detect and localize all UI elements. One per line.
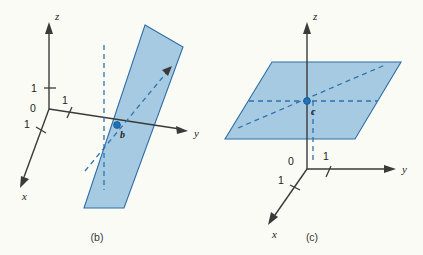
panel-c: z 0 y 1 x 1 c (c): [225, 10, 407, 243]
z-tick-label-b: 1: [31, 82, 37, 94]
z-axis-arrowhead-c: [303, 22, 311, 34]
y-axis-arrowhead-c: [384, 165, 396, 173]
y-axis-label-c: y: [401, 163, 407, 175]
x-tick-label-b: 1: [24, 118, 30, 130]
coordinate-plane-diagram: z 1 0 y 1 x 1 b (b): [0, 0, 423, 255]
y-tick-label-b: 1: [62, 94, 68, 106]
origin-label-c: 0: [288, 155, 294, 167]
point-c-label: c: [311, 106, 316, 117]
y-axis-tick-c: [326, 166, 331, 177]
y-axis-arrowhead-b: [176, 126, 188, 134]
figure-container: z 1 0 y 1 x 1 b (b): [0, 0, 423, 255]
y-axis-label-b: y: [193, 127, 199, 139]
origin-label-b: 0: [30, 102, 36, 114]
x-axis-label-b: x: [21, 190, 27, 202]
z-axis-label-c: z: [312, 10, 318, 22]
x-tick-label-c: 1: [278, 174, 284, 186]
x-axis-arrowhead-b: [20, 176, 29, 188]
panel-b: z 1 0 y 1 x 1 b (b): [20, 10, 199, 243]
x-axis-label-c: x: [271, 228, 277, 240]
z-axis-arrowhead-b: [45, 22, 53, 34]
point-b-marker: [114, 122, 121, 129]
point-c-marker: [304, 98, 311, 105]
caption-c: (c): [306, 231, 318, 243]
z-axis-label-b: z: [54, 10, 60, 22]
point-b-label: b: [120, 129, 125, 140]
caption-b: (b): [91, 231, 104, 243]
y-tick-label-c: 1: [323, 150, 329, 162]
